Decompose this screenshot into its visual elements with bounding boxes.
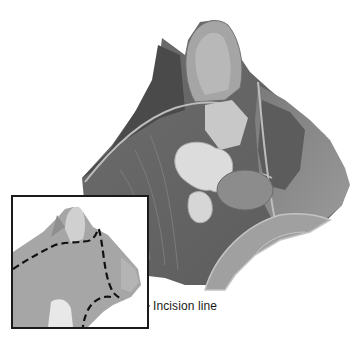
inset-cat-profile-panel: [11, 195, 149, 329]
anatomy-figure: Incision line: [0, 0, 362, 339]
cat-profile-incision-diagram: [13, 197, 147, 327]
incision-line-label: Incision line: [153, 299, 217, 313]
